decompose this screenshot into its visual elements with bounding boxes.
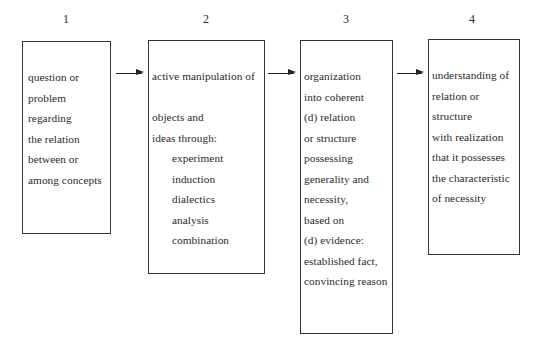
step-1-text: question or problem regarding the relati…	[28, 67, 110, 190]
step-3-line: (d) relation	[304, 107, 392, 128]
step-2-blank-line	[152, 87, 264, 108]
step-2-method-item: experiment	[152, 148, 264, 169]
arrow-1-to-2	[116, 73, 142, 74]
step-number-2: 2	[186, 12, 226, 26]
step-4-text: understanding of relation or structure w…	[432, 65, 519, 209]
step-1-line: problem	[28, 88, 110, 109]
step-2-line: objects and	[152, 107, 264, 128]
step-4-line: structure	[432, 106, 519, 127]
step-1-line: among concepts	[28, 170, 110, 191]
step-2-line: active manipulation of	[152, 66, 264, 87]
step-number-4: 4	[452, 12, 492, 26]
step-number-3: 3	[326, 12, 366, 26]
step-2-method-item: analysis	[152, 210, 264, 231]
arrow-2-to-3	[268, 73, 294, 74]
step-4-line: relation or	[432, 86, 519, 107]
step-3-line: generality and	[304, 169, 392, 190]
step-2-method-item: induction	[152, 169, 264, 190]
step-3-line: based on	[304, 210, 392, 231]
step-2-line: ideas through:	[152, 128, 264, 149]
step-3-line: or structure	[304, 128, 392, 149]
step-box-organization: organization into coherent (d) relation …	[300, 40, 393, 334]
arrow-3-to-4	[397, 73, 422, 74]
step-2-text: active manipulation of objects and ideas…	[152, 66, 264, 251]
step-1-line: the relation	[28, 129, 110, 150]
step-4-line: the characteristic	[432, 168, 519, 189]
step-3-text: organization into coherent (d) relation …	[304, 66, 392, 292]
step-number-1: 1	[46, 12, 86, 26]
step-3-line: possessing	[304, 148, 392, 169]
step-3-line: convincing reason	[304, 271, 392, 292]
step-4-line: with realization	[432, 127, 519, 148]
step-2-method-item: dialectics	[152, 189, 264, 210]
step-1-line: question or	[28, 67, 110, 88]
step-2-method-item: combination	[152, 230, 264, 251]
step-3-line: established fact,	[304, 251, 392, 272]
step-box-understanding: understanding of relation or structure w…	[428, 39, 520, 255]
step-box-manipulation: active manipulation of objects and ideas…	[148, 40, 265, 274]
step-4-line: understanding of	[432, 65, 519, 86]
step-1-line: between or	[28, 149, 110, 170]
step-3-line: necessity,	[304, 189, 392, 210]
step-1-line: regarding	[28, 108, 110, 129]
step-3-line: (d) evidence:	[304, 230, 392, 251]
step-3-line: into coherent	[304, 87, 392, 108]
step-4-line: of necessity	[432, 188, 519, 209]
step-3-line: organization	[304, 66, 392, 87]
step-4-line: that it possesses	[432, 147, 519, 168]
step-box-question: question or problem regarding the relati…	[22, 41, 111, 234]
